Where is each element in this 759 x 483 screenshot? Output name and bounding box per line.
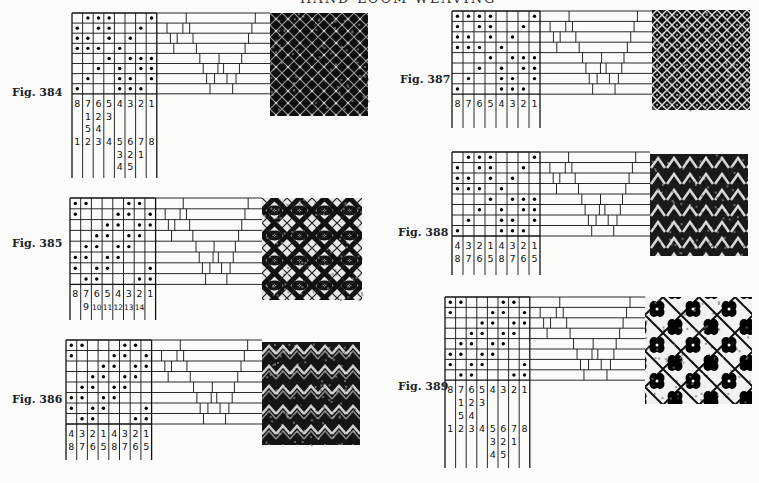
treadle-number: 2 [468, 397, 474, 408]
treadle-number: 4 [468, 410, 474, 421]
weave-draft: 87654321123541234567832145 [0, 0, 759, 483]
treadle-number: 2 [511, 384, 517, 395]
tieup-dot [512, 373, 515, 376]
tieup-dot [449, 353, 452, 356]
tieup-dot [470, 332, 473, 335]
tieup-dot [491, 311, 494, 314]
tieup-dot [502, 342, 505, 345]
tieup-dot [523, 311, 526, 314]
treadle-number: 3 [479, 397, 485, 408]
tieup-dot [459, 353, 462, 356]
treadle-number: 3 [490, 436, 496, 447]
treadle-number: 5 [479, 384, 485, 395]
tieup-dot [480, 363, 483, 366]
treadle-number: 7 [458, 384, 464, 395]
treadle-number: 4 [490, 384, 496, 395]
treadle-number: 8 [521, 423, 527, 434]
tieup-dot [512, 321, 515, 324]
treadle-number: 4 [490, 449, 496, 460]
treadle-number: 8 [447, 384, 453, 395]
tieup-dot [470, 373, 473, 376]
treadle-number: 7 [511, 423, 517, 434]
tieup-grid [445, 297, 530, 468]
treadle-number: 3 [468, 423, 474, 434]
treadle-number: 1 [447, 423, 453, 434]
treadle-number: 2 [458, 423, 464, 434]
treadle-number: 5 [458, 410, 464, 421]
tieup-dot [459, 301, 462, 304]
threading-draft [530, 297, 645, 380]
treadle-number: 6 [468, 384, 474, 395]
treadle-number: 1 [511, 436, 517, 447]
tieup-dot [449, 301, 452, 304]
tieup-dot [491, 353, 494, 356]
tieup-dot [449, 363, 452, 366]
tieup-dot [480, 321, 483, 324]
treadle-number: 5 [500, 449, 506, 460]
treadle-number: 5 [490, 423, 496, 434]
treadle-number: 4 [479, 423, 485, 434]
tieup-dot [523, 363, 526, 366]
tieup-dot [502, 311, 505, 314]
treadle-number: 6 [500, 423, 506, 434]
treadle-number: 2 [500, 436, 506, 447]
tieup-dot [459, 373, 462, 376]
tieup-dot [480, 332, 483, 335]
tieup-dot [491, 321, 494, 324]
treadle-number: 3 [500, 384, 506, 395]
tieup-dot [470, 363, 473, 366]
tieup-dot [512, 301, 515, 304]
tieup-dot [459, 342, 462, 345]
tieup-dot [502, 332, 505, 335]
tieup-dot [512, 332, 515, 335]
tieup-dot [523, 373, 526, 376]
tieup-dot [470, 342, 473, 345]
treadle-number: 1 [458, 397, 464, 408]
tieup-dot [491, 342, 494, 345]
tieup-dot [523, 321, 526, 324]
tieup-dot [502, 301, 505, 304]
tieup-dot [480, 353, 483, 356]
woven-fabric-image [645, 297, 752, 404]
treadle-number: 1 [521, 384, 527, 395]
tieup-dot [449, 311, 452, 314]
